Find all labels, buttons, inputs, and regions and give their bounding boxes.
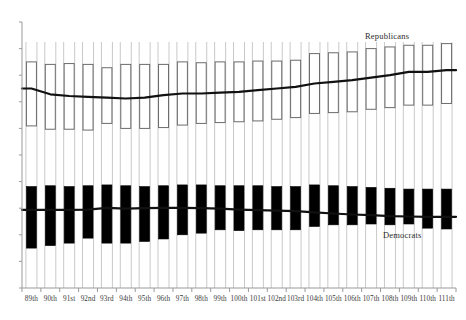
- x-axis-tick-label: 109th: [400, 295, 417, 303]
- democrat-range-bar: [121, 186, 131, 243]
- republican-range-bar: [385, 47, 395, 108]
- republican-range-bar: [26, 62, 36, 126]
- x-axis-tick-label: 106th: [344, 295, 361, 303]
- democrat-range-bar: [385, 188, 395, 225]
- x-axis-tick-label: 103rd: [287, 295, 305, 303]
- republican-range-bar: [102, 68, 112, 124]
- democrat-range-bar: [140, 187, 150, 242]
- x-axis-tick-label: 99th: [214, 295, 227, 303]
- republican-range-bar: [442, 44, 452, 104]
- democrat-range-bar: [347, 187, 357, 225]
- republican-range-bar: [347, 52, 357, 112]
- x-axis-tick-label: 101st: [250, 295, 266, 303]
- x-axis-tick-label: 110th: [419, 295, 436, 303]
- x-axis-tick-label: 92nd: [81, 295, 96, 303]
- republican-range-bar: [272, 61, 282, 119]
- x-axis-tick-label: 105th: [325, 295, 342, 303]
- democrat-range-bar: [291, 187, 301, 230]
- democrats-series-label: Democrats: [383, 230, 422, 240]
- y-axis: [19, 22, 22, 288]
- democrat-range-bar: [423, 189, 433, 228]
- x-axis-tick-label: 104th: [306, 295, 323, 303]
- x-axis-tick-label: 102nd: [268, 295, 287, 303]
- republican-range-bar: [423, 45, 433, 105]
- democrat-range-bar: [253, 186, 263, 230]
- x-axis-tick-label: 108th: [382, 295, 399, 303]
- x-axis-tick-label: 89th: [25, 295, 38, 303]
- x-axis-tick-label: 111th: [438, 295, 455, 303]
- x-axis-tick-label: 90th: [44, 295, 57, 303]
- x-axis-tick-labels: 89th90th91st92nd93rd94th95th96th97th98th…: [25, 295, 455, 303]
- chart-plot-area: 89th90th91st92nd93rd94th95th96th97th98th…: [0, 0, 466, 320]
- x-axis-tick-label: 93rd: [100, 295, 114, 303]
- democrat-range-bar: [102, 185, 112, 243]
- x-axis-tick-label: 100th: [231, 295, 248, 303]
- x-axis-tick-label: 98th: [195, 295, 208, 303]
- democrat-range-bar: [64, 187, 74, 244]
- republican-range-bar: [291, 60, 301, 117]
- democrat-range-bar: [234, 186, 244, 231]
- democrat-range-bar: [26, 187, 36, 249]
- republicans-series-label: Republicans: [365, 31, 409, 41]
- democrat-range-bar: [177, 185, 187, 235]
- x-axis-tick-label: 96th: [157, 295, 170, 303]
- x-axis-tick-label: 94th: [119, 295, 132, 303]
- democrat-range-bar: [404, 189, 414, 224]
- x-axis-tick-label: 107th: [363, 295, 380, 303]
- x-axis: [22, 288, 456, 292]
- x-axis-tick-label: 91st: [63, 295, 75, 303]
- democrat-range-bar: [309, 185, 319, 227]
- democrat-range-bar: [45, 186, 55, 246]
- x-axis-tick-label: 95th: [138, 295, 151, 303]
- democrat-range-bar: [272, 187, 282, 230]
- democrat-range-bar: [328, 186, 338, 225]
- republican-bars: [26, 44, 451, 130]
- democrat-range-bar: [159, 186, 169, 239]
- x-axis-tick-label: 97th: [176, 295, 189, 303]
- republican-range-bar: [404, 45, 414, 105]
- democrat-range-bar: [366, 187, 376, 224]
- democrat-range-bar: [442, 189, 452, 229]
- republican-range-bar: [121, 64, 131, 128]
- republican-range-bar: [45, 64, 55, 129]
- democrat-range-bar: [83, 186, 93, 238]
- chart-container: 89th90th91st92nd93rd94th95th96th97th98th…: [0, 0, 466, 320]
